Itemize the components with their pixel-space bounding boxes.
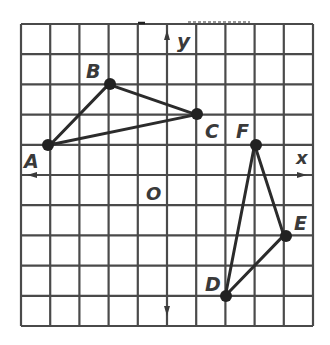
- y-axis-down-arrow-icon: [164, 306, 170, 316]
- x-axis-label: x: [295, 147, 309, 168]
- origin-label: O: [146, 183, 161, 204]
- label-e: E: [294, 212, 307, 234]
- y-axis-label: y: [177, 29, 191, 53]
- vertex-b: [104, 78, 116, 90]
- coordinate-plane-diagram: y x O A B C F E D: [0, 0, 330, 345]
- label-a: A: [22, 150, 39, 172]
- label-d: D: [205, 273, 221, 295]
- y-axis-up-arrow-icon: [164, 30, 170, 40]
- vertex-c: [191, 108, 203, 120]
- x-axis-left-arrow-icon: [27, 172, 37, 178]
- vertex-e: [280, 230, 292, 242]
- x-axis-right-arrow-icon: [297, 172, 307, 178]
- vertex-f: [250, 139, 262, 151]
- grid-lines: [21, 24, 313, 326]
- label-f: F: [236, 120, 249, 142]
- label-b: B: [86, 60, 100, 82]
- coordinate-plane: y x O A B C F E D: [0, 0, 330, 345]
- vertex-d: [220, 290, 232, 302]
- vertex-a: [42, 139, 54, 151]
- label-c: C: [205, 120, 219, 142]
